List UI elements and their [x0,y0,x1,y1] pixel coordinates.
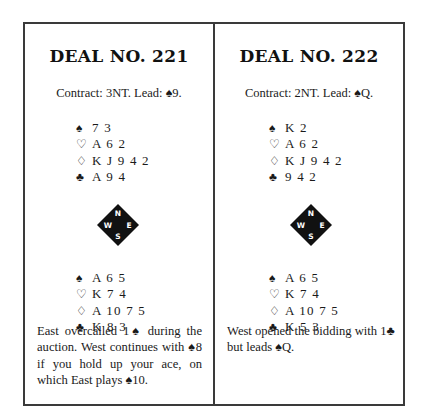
hand-row-diamonds: ♢A 10 7 5 [269,303,339,319]
compass-n: N [115,209,121,218]
cards: K 7 4 [285,286,320,301]
hand-row-hearts: ♡K 7 4 [76,286,146,302]
compass-w: W [297,221,306,230]
compass-icon: N E S W [289,203,333,247]
cards: A 6 5 [92,270,126,285]
compass-e: E [126,221,131,230]
diamond-icon: ♢ [269,154,285,169]
cards: A 6 2 [285,136,319,151]
cards: 7 3 [92,120,112,135]
diamond-icon: ♢ [76,154,92,169]
hand-row-spades: ♠K 2 [269,120,343,136]
hand-row-spades: ♠7 3 [76,120,150,136]
hand-row-spades: ♠A 6 5 [76,270,146,286]
heart-icon: ♡ [76,287,92,302]
spade-icon: ♠ [269,121,285,136]
contract-line: Contract: 2NT. Lead: ♠Q. [215,86,403,101]
deal-panel-221: DEAL NO. 221 Contract: 3NT. Lead: ♠9. ♠7… [25,24,215,404]
cards: K 2 [285,120,308,135]
compass-e: E [319,221,324,230]
hand-row-spades: ♠A 6 5 [269,270,339,286]
compass-s: S [115,232,120,241]
deals-frame: DEAL NO. 221 Contract: 3NT. Lead: ♠9. ♠7… [23,22,405,406]
spade-icon: ♠ [76,271,92,286]
deal-note: East overcalled 1♠ during the auction. W… [37,323,202,389]
cards: 9 4 2 [285,169,317,184]
cards: K J 9 4 2 [92,153,150,168]
hand-row-hearts: ♡A 6 2 [76,136,150,152]
deal-title: DEAL NO. 221 [25,46,213,66]
north-hand: ♠K 2 ♡A 6 2 ♢K J 9 4 2 ♣9 4 2 [269,120,343,185]
contract-line: Contract: 3NT. Lead: ♠9. [25,86,213,101]
compass-icon: N E S W [96,203,140,247]
cards: A 10 7 5 [285,303,339,318]
hand-row-diamonds: ♢A 10 7 5 [76,303,146,319]
deal-panel-222: DEAL NO. 222 Contract: 2NT. Lead: ♠Q. ♠K… [215,24,403,404]
deal-note: West opened the bidding with 1♣ but lead… [227,323,395,356]
heart-icon: ♡ [269,137,285,152]
cards: K 7 4 [92,286,127,301]
cards: K J 9 4 2 [285,153,343,168]
cards: A 6 5 [285,270,319,285]
cards: A 6 2 [92,136,126,151]
hand-row-diamonds: ♢K J 9 4 2 [269,153,343,169]
hand-row-hearts: ♡K 7 4 [269,286,339,302]
cards: A 10 7 5 [92,303,146,318]
heart-icon: ♡ [76,137,92,152]
hand-row-hearts: ♡A 6 2 [269,136,343,152]
hand-row-clubs: ♣A 9 4 [76,169,150,185]
club-icon: ♣ [76,170,92,185]
compass-w: W [104,221,113,230]
diamond-icon: ♢ [269,304,285,319]
diamond-icon: ♢ [76,304,92,319]
cards: A 9 4 [92,169,126,184]
compass-n: N [308,209,314,218]
compass-s: S [308,232,313,241]
heart-icon: ♡ [269,287,285,302]
spade-icon: ♠ [76,121,92,136]
hand-row-diamonds: ♢K J 9 4 2 [76,153,150,169]
deal-title: DEAL NO. 222 [215,46,403,66]
north-hand: ♠7 3 ♡A 6 2 ♢K J 9 4 2 ♣A 9 4 [76,120,150,185]
spade-icon: ♠ [269,271,285,286]
club-icon: ♣ [269,170,285,185]
hand-row-clubs: ♣9 4 2 [269,169,343,185]
